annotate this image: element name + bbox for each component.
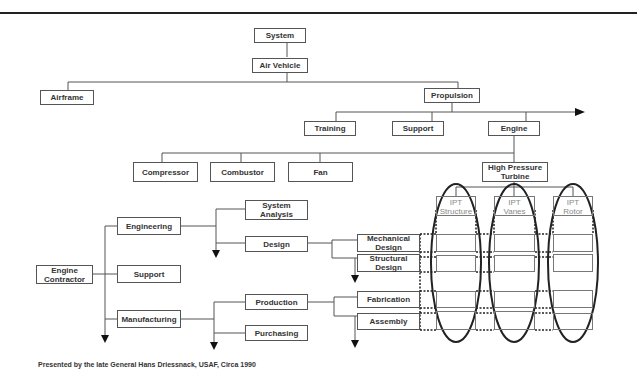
node-manufacturing[interactable]: Manufacturing: [117, 310, 181, 328]
node-high-pressure-turbine[interactable]: High Pressure Turbine: [482, 162, 548, 182]
node-support-top[interactable]: Support: [392, 121, 444, 136]
matrix-cell: [553, 290, 593, 308]
node-propulsion[interactable]: Propulsion: [424, 88, 480, 103]
connector-lines: [0, 0, 637, 382]
node-mechanical-design[interactable]: Mechanical Design: [357, 234, 420, 252]
node-engine-contractor[interactable]: Engine Contractor: [36, 265, 93, 284]
matrix-cell: [436, 291, 476, 308]
ipt-rotor[interactable]: IPT Rotor: [553, 196, 593, 216]
ipt-vanes[interactable]: IPT Vanes: [494, 196, 535, 216]
ipt-structure[interactable]: IPT Structure: [436, 196, 476, 216]
matrix-cell: [436, 234, 476, 252]
node-engineering[interactable]: Engineering: [117, 217, 181, 235]
matrix-cell: [436, 311, 476, 330]
node-engine[interactable]: Engine: [488, 121, 540, 136]
matrix-cell: [494, 311, 535, 330]
matrix-cell: [553, 234, 593, 252]
node-fabrication[interactable]: Fabrication: [357, 291, 420, 308]
caption: Presented by the late General Hans Dries…: [38, 361, 256, 368]
node-purchasing[interactable]: Purchasing: [245, 325, 308, 341]
matrix-cell: [494, 255, 535, 272]
node-combustor[interactable]: Combustor: [210, 162, 275, 182]
matrix-cell: [553, 313, 593, 330]
node-assembly[interactable]: Assembly: [357, 313, 420, 330]
node-airframe[interactable]: Airframe: [40, 90, 94, 105]
matrix-cell: [553, 254, 593, 272]
matrix-cell: [494, 291, 535, 308]
node-fan[interactable]: Fan: [288, 162, 353, 182]
node-system[interactable]: System: [254, 28, 306, 43]
matrix-cell: [494, 234, 535, 252]
node-compressor[interactable]: Compressor: [133, 162, 198, 182]
node-air-vehicle[interactable]: Air Vehicle: [252, 58, 308, 73]
node-design[interactable]: Design: [245, 236, 308, 252]
node-system-analysis[interactable]: System Analysis: [245, 200, 308, 220]
matrix-cell: [436, 255, 476, 272]
node-structural-design[interactable]: Structural Design: [357, 254, 420, 272]
node-production[interactable]: Production: [245, 294, 308, 310]
node-support[interactable]: Support: [117, 265, 181, 283]
node-training[interactable]: Training: [304, 121, 356, 136]
